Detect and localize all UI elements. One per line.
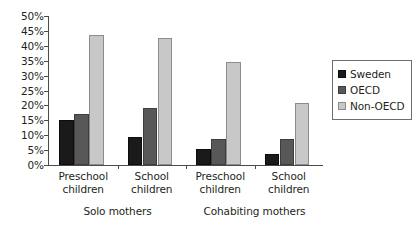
plot-area bbox=[49, 16, 323, 165]
y-axis-tick-mark bbox=[44, 120, 48, 121]
y-axis-tick-label: 15% bbox=[0, 115, 44, 126]
legend-swatch-icon bbox=[338, 102, 346, 110]
y-axis-tick-label: 35% bbox=[0, 55, 44, 66]
legend-item: Sweden bbox=[338, 66, 405, 82]
bar-oecd bbox=[280, 139, 295, 165]
bar-oecd bbox=[74, 114, 89, 165]
y-axis-tick-label: 45% bbox=[0, 25, 44, 36]
bar-sweden bbox=[59, 120, 74, 165]
y-axis-tick-mark bbox=[44, 150, 48, 151]
bar-non-oecd bbox=[158, 38, 173, 165]
legend-swatch-icon bbox=[338, 86, 346, 94]
bar-oecd bbox=[143, 108, 158, 166]
x-axis-tick-mark bbox=[255, 165, 256, 169]
x-axis-category-label: Schoolchildren bbox=[249, 170, 330, 195]
x-axis-category-label-line: children bbox=[249, 183, 330, 196]
y-axis-tick-labels: 0%5%10%15%20%25%30%35%40%45%50% bbox=[0, 10, 44, 171]
bar-non-oecd bbox=[226, 62, 241, 165]
y-axis-tick-mark bbox=[44, 61, 48, 62]
y-axis-tick-label: 0% bbox=[0, 160, 44, 171]
y-axis-tick-mark bbox=[44, 105, 48, 106]
bar-chart: 0%5%10%15%20%25%30%35%40%45%50% SwedenOE… bbox=[0, 0, 417, 231]
y-axis-tick-label: 25% bbox=[0, 85, 44, 96]
x-axis-category-label-line: School bbox=[249, 170, 330, 183]
x-axis-group-label: Solo mothers bbox=[38, 205, 198, 217]
y-axis-tick-label: 40% bbox=[0, 40, 44, 51]
bar-oecd bbox=[211, 139, 226, 165]
y-axis-tick-label: 5% bbox=[0, 145, 44, 156]
bar-group bbox=[59, 16, 104, 165]
bar-non-oecd bbox=[89, 35, 104, 165]
legend-item-label: OECD bbox=[350, 85, 380, 96]
y-axis-tick-mark bbox=[44, 91, 48, 92]
y-axis-tick-label: 10% bbox=[0, 130, 44, 141]
legend-item-label: Sweden bbox=[350, 69, 391, 80]
legend-swatch-icon bbox=[338, 70, 346, 78]
bar-group bbox=[128, 16, 173, 165]
bar-group bbox=[196, 16, 241, 165]
x-axis-group-label: Cohabiting mothers bbox=[175, 205, 335, 217]
legend-item-label: Non-OECD bbox=[350, 101, 405, 112]
y-axis-tick-mark bbox=[44, 76, 48, 77]
bar-sweden bbox=[196, 149, 211, 165]
bar-group bbox=[265, 16, 310, 165]
y-axis-tick-mark bbox=[44, 135, 48, 136]
y-axis-tick-label: 30% bbox=[0, 70, 44, 81]
y-axis-tick-label: 20% bbox=[0, 100, 44, 111]
x-axis-tick-mark bbox=[186, 165, 187, 169]
x-axis-tick-mark bbox=[118, 165, 119, 169]
chart-legend: SwedenOECDNon-OECD bbox=[332, 60, 412, 120]
bar-sweden bbox=[265, 154, 280, 165]
legend-item: OECD bbox=[338, 82, 405, 98]
y-axis-tick-mark bbox=[44, 16, 48, 17]
y-axis-tick-mark bbox=[44, 165, 48, 166]
legend-item: Non-OECD bbox=[338, 98, 405, 114]
y-axis-tick-label: 50% bbox=[0, 11, 44, 22]
y-axis-tick-mark bbox=[44, 31, 48, 32]
bar-non-oecd bbox=[295, 103, 310, 165]
y-axis-tick-mark bbox=[44, 46, 48, 47]
bar-sweden bbox=[128, 137, 143, 165]
